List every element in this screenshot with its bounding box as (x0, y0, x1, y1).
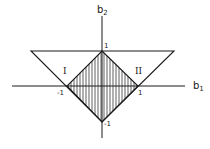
tick-y-neg: -1 (104, 120, 111, 128)
region-label-right: II (135, 66, 143, 76)
x-axis-label: b1 (193, 80, 204, 93)
tick-y-pos: 1 (104, 42, 108, 50)
tick-x-neg: -1 (57, 89, 64, 97)
y-axis-label: b2 (97, 4, 108, 17)
diagram-canvas: b2 b1 1 -1 -1 1 I II (0, 0, 210, 149)
region-label-left: I (63, 66, 67, 76)
tick-x-pos: 1 (138, 89, 142, 97)
